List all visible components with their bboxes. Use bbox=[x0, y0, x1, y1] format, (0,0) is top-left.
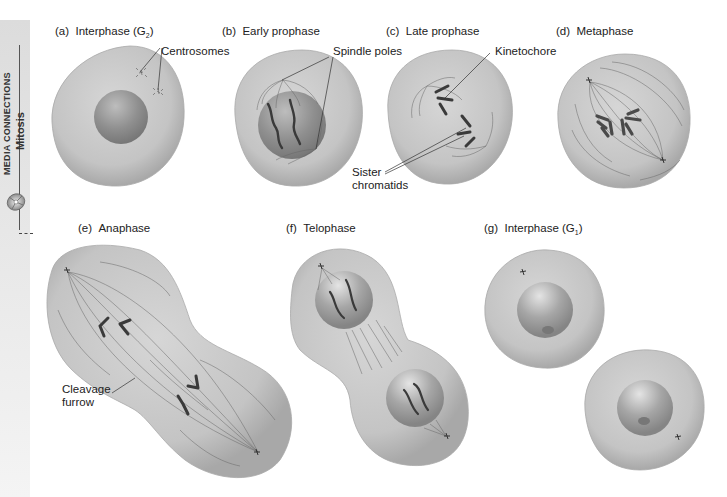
cell-telophase bbox=[290, 249, 468, 466]
mitosis-diagram bbox=[0, 0, 727, 497]
label-centrosomes: Centrosomes bbox=[161, 45, 229, 57]
panel-title-f: (f) Telophase bbox=[286, 222, 356, 234]
label-spindle-poles: Spindle poles bbox=[333, 45, 402, 57]
nucleolus bbox=[638, 417, 650, 425]
panel-title-d: (d) Metaphase bbox=[556, 25, 633, 37]
cell-anaphase bbox=[47, 245, 292, 477]
cell-metaphase bbox=[558, 54, 690, 188]
cell-interphase-g1-top bbox=[485, 250, 604, 368]
label-sister-chromatids: Sisterchromatids bbox=[352, 166, 408, 192]
cell-early-prophase bbox=[235, 50, 363, 186]
nucleus bbox=[94, 90, 148, 144]
nucleus bbox=[617, 380, 673, 436]
cell-interphase-g2 bbox=[52, 46, 184, 186]
label-kinetochore: Kinetochore bbox=[495, 45, 556, 57]
panel-title-e: (e) Anaphase bbox=[78, 222, 150, 234]
cell-late-prophase bbox=[385, 50, 512, 184]
panel-title-b: (b) Early prophase bbox=[222, 25, 320, 37]
nucleus bbox=[386, 369, 444, 427]
nucleolus bbox=[542, 326, 554, 334]
cell-interphase-g1-bottom bbox=[585, 350, 704, 470]
panel-title-g: (g) Interphase (G1) bbox=[484, 222, 583, 236]
label-cleavage-furrow: Cleavagefurrow bbox=[62, 383, 111, 409]
panel-title-c: (c) Late prophase bbox=[386, 25, 479, 37]
panel-title-a: (a) Interphase (G2) bbox=[55, 25, 154, 39]
nucleus bbox=[315, 271, 373, 329]
